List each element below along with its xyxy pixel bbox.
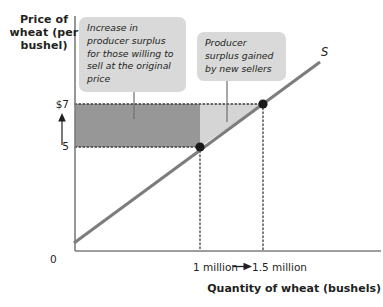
callout-existing-sellers: Increase in producer surplus for those w… [79,17,186,92]
y-axis-tick-price-7: $7 [42,98,69,110]
original-equilibrium-point [195,142,204,151]
y-axis-tick-price-5: 5 [42,140,69,152]
axis-origin-label: 0 [50,253,57,265]
supply-curve-label: S [321,46,328,60]
existing-surplus-region [75,104,200,147]
x-axis-tick-1-million: 1 million [160,261,238,273]
new-equilibrium-point [258,99,267,108]
supply-curve-figure: Price of wheat (per bushel) Quantity of … [0,0,383,307]
y-axis-title: Price of wheat (per bushel) [2,14,86,53]
x-axis-tick-1-5-million: 1.5 million [252,261,307,273]
callout-new-sellers: Producer surplus gained by new sellers [197,32,286,81]
x-axis-title: Quantity of wheat (bushels) [196,283,381,296]
